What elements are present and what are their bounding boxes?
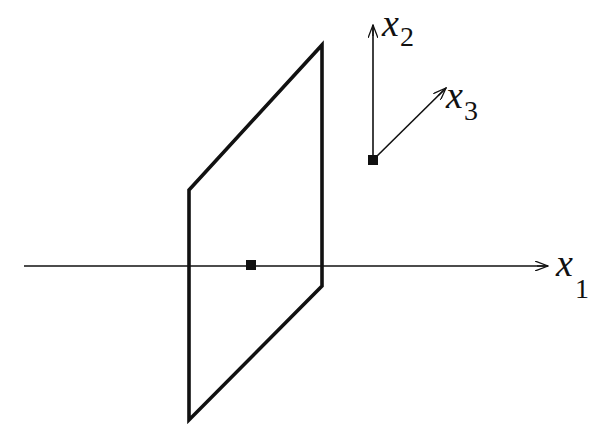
diagram-canvas <box>0 0 604 444</box>
x1-var: x <box>556 242 573 284</box>
x3-subscript: 3 <box>464 95 478 126</box>
x1-subscript: 1 <box>575 273 589 304</box>
center-point-marker <box>246 260 256 270</box>
x2-var: x <box>382 2 399 44</box>
x3-var: x <box>446 74 463 116</box>
x2-axis-label: x2 <box>382 4 413 42</box>
plane-parallelogram <box>189 45 322 420</box>
x3-axis-arrow <box>373 88 446 160</box>
x2-subscript: 2 <box>400 21 414 52</box>
x3-axis-label: x3 <box>446 76 477 114</box>
x1-axis-label: x1 <box>556 244 587 282</box>
frame-origin-marker <box>368 155 378 165</box>
